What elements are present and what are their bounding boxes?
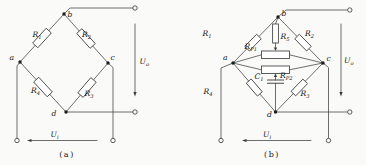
label-R2-b: R2 xyxy=(304,29,314,39)
uo-arrowhead xyxy=(133,92,136,97)
label-node-b: b xyxy=(68,10,73,19)
node-c-dot xyxy=(106,61,109,64)
label-node-d: d xyxy=(267,110,272,119)
resistor-R5 xyxy=(273,24,279,43)
label-node-b: b xyxy=(282,9,287,18)
caption-a: (a) xyxy=(59,150,75,159)
label-Ui-a: Ui xyxy=(51,130,59,140)
terminal-bottom-right xyxy=(111,138,115,142)
label-R3-b: R3 xyxy=(300,89,311,99)
wire-a-to-RP2 xyxy=(233,63,262,70)
label-R5: R5 xyxy=(280,32,290,42)
label-R1-a: R1 xyxy=(32,30,42,40)
node-b-dot xyxy=(62,12,65,15)
label-node-d: d xyxy=(52,109,57,118)
label-Ui-b: Ui xyxy=(263,130,271,140)
ui-arrowhead xyxy=(242,139,247,142)
wire-c-to-RP2 xyxy=(290,63,324,70)
terminal-bottom-left xyxy=(15,138,19,142)
potentiometer-RP1 xyxy=(262,51,290,59)
circuit-a: R1 R2 R4 R3 a b c d Uo Ui (a) xyxy=(10,6,150,159)
wire-a-to-terminal xyxy=(221,63,233,138)
label-R1-b: R1 xyxy=(202,29,212,39)
node-b-dot xyxy=(276,15,279,18)
terminal-bottom-right xyxy=(326,138,330,142)
label-node-a: a xyxy=(223,53,228,62)
capacitor-C1 xyxy=(268,80,284,83)
terminal-mid-right xyxy=(348,110,352,114)
label-R4-b: R4 xyxy=(203,87,213,97)
wire-c-to-terminal xyxy=(108,63,113,138)
terminal-top-right xyxy=(133,6,137,10)
wire-c-to-RP1 xyxy=(290,55,324,63)
wire-b-to-terminal xyxy=(64,8,133,14)
label-node-c: c xyxy=(327,54,332,63)
bridge-circuits-svg: R1 R2 R4 R3 a b c d Uo Ui (a) xyxy=(0,0,366,165)
node-a-dot xyxy=(18,60,21,63)
wire-c-to-terminal xyxy=(323,63,329,138)
label-Uo-a: Uo xyxy=(140,57,150,67)
label-node-c: c xyxy=(111,53,116,62)
circuit-b: R1 R2 R5 RP1 RP2 C1 R4 R3 a b c d Uo Ui … xyxy=(202,8,354,159)
node-d-dot xyxy=(64,110,67,113)
wire-a-to-terminal xyxy=(17,62,20,138)
terminal-bottom-left xyxy=(219,138,223,142)
wheatstone-bridge-figure: R1 R2 R4 R3 a b c d Uo Ui (a) xyxy=(0,0,366,165)
wire-b-to-terminal xyxy=(278,10,347,17)
terminal-mid-right xyxy=(133,110,137,114)
terminal-top-right xyxy=(348,8,352,12)
label-node-a: a xyxy=(10,53,15,62)
node-c-dot xyxy=(321,61,324,64)
wiper-RP1-arrowhead xyxy=(274,48,277,52)
label-Uo-b: Uo xyxy=(344,56,354,66)
ui-arrowhead xyxy=(27,139,32,142)
wiper-RP2-arrowhead xyxy=(274,74,277,78)
label-R2-a: R2 xyxy=(81,30,91,40)
node-d-dot xyxy=(274,110,277,113)
node-a-dot xyxy=(231,61,234,64)
caption-b: (b) xyxy=(264,150,280,159)
label-R3-a: R3 xyxy=(84,89,95,99)
uo-arrowhead xyxy=(339,92,342,97)
